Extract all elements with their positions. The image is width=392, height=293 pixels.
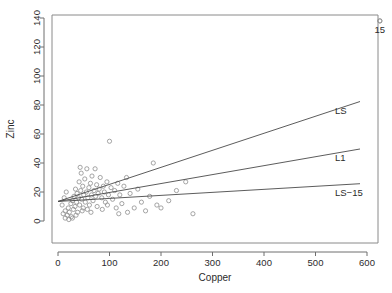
- y-tick-label: 20: [31, 187, 42, 198]
- scatter-point: [78, 203, 82, 207]
- scatter-point: [107, 139, 111, 143]
- x-tick-label: 400: [256, 257, 272, 268]
- plot-frame: [52, 15, 378, 243]
- y-axis-tick-labels: 020406080100120140: [31, 10, 42, 224]
- scatter-point: [89, 210, 93, 214]
- outlier-label: 15: [375, 24, 386, 35]
- scatter-point: [83, 177, 87, 181]
- scatter-point: [95, 183, 99, 187]
- y-tick-label: 40: [31, 158, 42, 169]
- x-tick-label: 0: [55, 257, 60, 268]
- scatter-point: [151, 161, 155, 165]
- outlier-annotation: 15: [375, 19, 386, 35]
- scatter-point: [89, 193, 93, 197]
- scatter-point: [128, 191, 132, 195]
- x-axis-tick-labels: 0100200300400500600: [55, 257, 375, 268]
- scatter-point: [81, 184, 85, 188]
- scatter-plot-figure: 0100200300400500600 020406080100120140 L…: [0, 0, 392, 293]
- y-tick-label: 60: [31, 129, 42, 140]
- scatter-point: [93, 167, 97, 171]
- x-axis-ticks: [58, 252, 367, 256]
- scatter-point: [155, 203, 159, 207]
- scatter-point: [117, 212, 121, 216]
- scatter-point: [105, 180, 109, 184]
- scatter-point: [87, 186, 91, 190]
- scatter-point: [191, 212, 195, 216]
- scatter-point: [105, 203, 109, 207]
- scatter-point: [98, 175, 102, 179]
- scatter-point: [114, 206, 118, 210]
- regression-line-l1: [58, 149, 360, 201]
- scatter-point: [109, 186, 113, 190]
- x-tick-label: 300: [205, 257, 221, 268]
- y-tick-label: 140: [31, 10, 42, 26]
- scatter-point: [60, 203, 64, 207]
- scatter-point: [67, 210, 71, 214]
- scatter-point: [61, 212, 65, 216]
- scatter-point: [66, 206, 70, 210]
- y-tick-label: 80: [31, 100, 42, 111]
- scatter-point: [103, 200, 107, 204]
- regression-lines: [58, 102, 360, 202]
- scatter-point: [95, 204, 99, 208]
- scatter-point: [90, 174, 94, 178]
- scatter-point: [122, 184, 126, 188]
- scatter-point: [120, 202, 124, 206]
- scatter-point: [79, 171, 83, 175]
- scatter-point: [143, 209, 147, 213]
- scatter-point: [184, 180, 188, 184]
- x-tick-label: 200: [153, 257, 169, 268]
- scatter-point: [87, 203, 91, 207]
- scatter-point: [106, 193, 110, 197]
- y-tick-label: 100: [31, 68, 42, 84]
- scatter-point: [85, 167, 89, 171]
- scatter-point: [85, 207, 89, 211]
- y-axis-title: Zinc: [5, 120, 16, 139]
- line-label-ls-15: LS−15: [335, 187, 363, 198]
- line-label-l1: L1: [335, 152, 346, 163]
- scatter-point: [79, 188, 83, 192]
- scatter-point: [64, 190, 68, 194]
- scatter-point: [125, 210, 129, 214]
- x-tick-label: 100: [102, 257, 118, 268]
- scatter-point: [139, 200, 143, 204]
- scatter-point: [78, 165, 82, 169]
- scatter-point: [88, 181, 92, 185]
- plot-canvas: 0100200300400500600 020406080100120140 L…: [0, 0, 392, 293]
- scatter-point: [132, 206, 136, 210]
- x-tick-label: 500: [308, 257, 324, 268]
- scatter-point: [100, 207, 104, 211]
- scatter-point: [174, 188, 178, 192]
- line-label-ls: LS: [335, 105, 347, 116]
- scatter-points: [60, 19, 382, 222]
- scatter-point: [118, 193, 122, 197]
- scatter-point: [83, 200, 87, 204]
- x-axis-title: Copper: [199, 272, 232, 283]
- x-tick-label: 600: [359, 257, 375, 268]
- y-tick-label: 0: [31, 218, 42, 223]
- scatter-point: [65, 213, 69, 217]
- scatter-point: [73, 187, 77, 191]
- scatter-point: [167, 199, 171, 203]
- scatter-point: [77, 180, 81, 184]
- scatter-point: [159, 206, 163, 210]
- y-tick-label: 120: [31, 39, 42, 55]
